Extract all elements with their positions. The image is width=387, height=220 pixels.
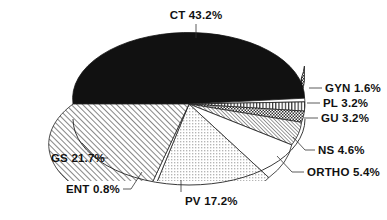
pie-chart: CT 43.2% GYN 1.6% PL 3.2% GU 3.2% NS 4.6… [0, 0, 387, 220]
label-gyn: GYN 1.6% [325, 82, 381, 94]
label-pl: PL 3.2% [323, 97, 368, 109]
pie-chart-svg: CT 43.2% GYN 1.6% PL 3.2% GU 3.2% NS 4.6… [0, 0, 387, 220]
label-gu: GU 3.2% [321, 112, 369, 124]
label-ct: CT 43.2% [170, 9, 223, 21]
label-gs: GS 21.7% [51, 152, 105, 164]
label-ns: NS 4.6% [318, 144, 365, 156]
label-ortho: ORTHO 5.4% [307, 166, 380, 178]
label-ent: ENT 0.8% [66, 183, 120, 195]
pie-slice-ct[interactable] [73, 33, 305, 104]
label-pv: PV 17.2% [185, 195, 238, 207]
